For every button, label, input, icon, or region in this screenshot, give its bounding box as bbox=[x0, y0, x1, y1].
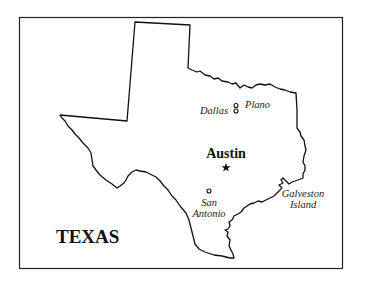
label-austin: Austin bbox=[206, 146, 246, 161]
marker-dallas bbox=[234, 109, 238, 113]
label-galveston-line2: Island bbox=[289, 199, 317, 210]
label-plano: Plano bbox=[244, 99, 270, 110]
label-dallas: Dallas bbox=[199, 105, 228, 116]
texas-map: Dallas Plano Austin San Antonio Galvesto… bbox=[0, 0, 365, 282]
texas-outline bbox=[60, 22, 306, 258]
circle-icon bbox=[234, 104, 238, 108]
label-san-antonio-line1: San bbox=[201, 197, 217, 208]
label-galveston-line1: Galveston bbox=[282, 188, 325, 199]
circle-icon bbox=[207, 189, 211, 193]
marker-plano bbox=[234, 104, 238, 108]
label-san-antonio-line2: Antonio bbox=[191, 208, 225, 219]
map-title: TEXAS bbox=[56, 226, 119, 247]
circle-icon bbox=[234, 109, 238, 113]
